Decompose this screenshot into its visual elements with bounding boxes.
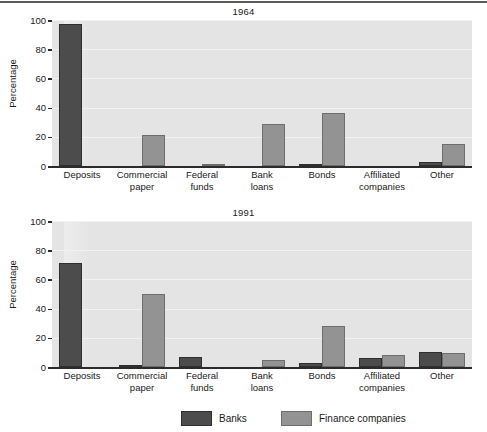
- y-tick-label: 20: [16, 333, 46, 342]
- y-tick-mark: [48, 166, 52, 168]
- bar-1991-affiliated-companies-banks: [359, 358, 382, 367]
- y-tick-label: 40: [16, 304, 46, 313]
- chart-title-1964: 1964: [0, 6, 487, 17]
- bars-layer-1991: [52, 221, 472, 367]
- y-tick-label: 100: [16, 217, 46, 226]
- top-rule-divider: [0, 1, 487, 3]
- x-axis-labels-1991: DepositsCommercialpaperFederalfundsBankl…: [52, 370, 472, 402]
- y-tick-mark: [48, 250, 52, 252]
- y-tick-label: 20: [16, 132, 46, 141]
- legend-label-finance-companies: Finance companies: [319, 413, 406, 424]
- y-tick-mark: [48, 108, 52, 110]
- bar-1991-deposits-banks: [59, 263, 82, 367]
- y-tick-label: 60: [16, 275, 46, 284]
- chart-panel-1964: 1964 Percentage 020406080100 DepositsCom…: [0, 6, 487, 202]
- bar-1964-commercial-paper-finance-companies: [142, 135, 165, 166]
- chart-panel-1991: 1991 Percentage 020406080100 DepositsCom…: [0, 207, 487, 403]
- y-tick-mark: [48, 309, 52, 311]
- y-tick-mark: [48, 221, 52, 223]
- bar-1991-affiliated-companies-finance-companies: [382, 355, 405, 367]
- y-tick-mark: [48, 49, 52, 51]
- bar-1964-deposits-banks: [59, 24, 82, 166]
- bar-1991-other-finance-companies: [442, 353, 465, 367]
- y-tick-mark: [48, 338, 52, 340]
- legend-label-banks: Banks: [219, 413, 247, 424]
- legend-swatch-banks-icon: [181, 411, 212, 426]
- y-tick-mark: [48, 367, 52, 369]
- y-tick-mark: [48, 78, 52, 80]
- x-tick-label-line: companies: [342, 382, 422, 394]
- y-tick-mark: [48, 20, 52, 22]
- legend-item-finance-companies: Finance companies: [281, 411, 406, 426]
- y-tick-label: 60: [16, 74, 46, 83]
- bar-1991-other-banks: [419, 352, 442, 367]
- x-tick-label: Other: [402, 370, 482, 382]
- y-tick-mark: [48, 279, 52, 281]
- x-axis-line-1964: [52, 166, 472, 168]
- bar-1991-federal-funds-banks: [179, 357, 202, 367]
- bars-layer-1964: [52, 20, 472, 166]
- x-tick-label-line: Other: [402, 169, 482, 181]
- bar-1964-other-finance-companies: [442, 144, 465, 166]
- y-tick-mark: [48, 137, 52, 139]
- legend-item-banks: Banks: [181, 411, 247, 426]
- x-tick-label-line: companies: [342, 181, 422, 193]
- chart-title-1991: 1991: [0, 207, 487, 218]
- y-tick-label: 80: [16, 45, 46, 54]
- x-tick-label: Other: [402, 169, 482, 181]
- figure-root: 1964 Percentage 020406080100 DepositsCom…: [0, 0, 487, 432]
- x-tick-label-line: loans: [222, 181, 302, 193]
- x-axis-line-1991: [52, 367, 472, 369]
- bar-1991-commercial-paper-finance-companies: [142, 294, 165, 367]
- legend-swatch-finance-companies-icon: [281, 411, 312, 426]
- x-tick-label-line: Other: [402, 370, 482, 382]
- bar-1991-bank-loans-finance-companies: [262, 360, 285, 367]
- bar-1991-bonds-finance-companies: [322, 326, 345, 367]
- chart-legend: Banks Finance companies: [0, 411, 487, 432]
- x-tick-label-line: loans: [222, 382, 302, 394]
- y-tick-label: 100: [16, 16, 46, 25]
- bar-1964-bank-loans-finance-companies: [262, 124, 285, 166]
- x-axis-labels-1964: DepositsCommercialpaperFederalfundsBankl…: [52, 169, 472, 201]
- y-tick-label: 80: [16, 246, 46, 255]
- bar-1964-bonds-finance-companies: [322, 113, 345, 166]
- y-tick-label: 40: [16, 103, 46, 112]
